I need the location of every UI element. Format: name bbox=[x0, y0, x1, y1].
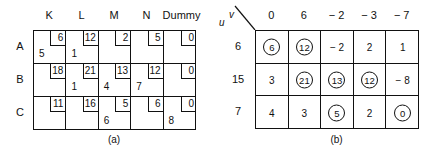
table-cell: 21 bbox=[289, 64, 322, 97]
cost-box: 0 bbox=[181, 31, 196, 46]
cell-value: 3 bbox=[289, 107, 321, 118]
allocation-value: 4 bbox=[104, 81, 110, 92]
reduced-cost-value: − 8 bbox=[396, 74, 410, 85]
column-header: K bbox=[33, 9, 65, 21]
cell-value: 12 bbox=[289, 38, 321, 55]
cost-box: 21 bbox=[83, 64, 98, 79]
table-cell: 3 bbox=[256, 64, 289, 97]
circled-basic-value: 5 bbox=[328, 104, 345, 121]
table-cell: 2 bbox=[354, 31, 387, 64]
column-header: Dummy bbox=[163, 9, 195, 21]
table-cell: 0 bbox=[164, 64, 196, 97]
table-cell: 6 bbox=[256, 31, 289, 64]
caption-a: (a) bbox=[33, 134, 195, 145]
column-header: L bbox=[65, 9, 97, 21]
u-value: 7 bbox=[227, 105, 249, 117]
circled-basic-value: 0 bbox=[394, 104, 411, 121]
allocation-value: 1 bbox=[71, 48, 77, 59]
circled-basic-value: 12 bbox=[296, 38, 313, 55]
v-value: 6 bbox=[288, 9, 321, 21]
cost-box: 18 bbox=[50, 64, 65, 79]
table-cell: 65 bbox=[34, 31, 66, 64]
column-header: N bbox=[130, 9, 162, 21]
table-cell: 6 bbox=[131, 97, 163, 130]
cell-value: 21 bbox=[289, 71, 321, 88]
cost-box: 6 bbox=[148, 97, 163, 112]
caption-b: (b) bbox=[255, 134, 418, 145]
table-cell: − 2 bbox=[321, 31, 354, 64]
allocation-value: 5 bbox=[39, 48, 45, 59]
u-value: 15 bbox=[227, 73, 249, 85]
cell-value: 13 bbox=[321, 71, 353, 88]
cell-value: 3 bbox=[256, 74, 288, 85]
table-cell: 211 bbox=[66, 64, 98, 97]
reduced-cost-value: 1 bbox=[400, 41, 406, 52]
reduced-cost-value: − 2 bbox=[330, 41, 344, 52]
table-cell: 11 bbox=[34, 97, 66, 130]
row-header: B bbox=[12, 73, 28, 85]
v-value: 0 bbox=[255, 9, 288, 21]
cost-box: 12 bbox=[148, 64, 163, 79]
cost-box: 0 bbox=[181, 97, 196, 112]
reduced-cost-value: 3 bbox=[269, 74, 275, 85]
column-header: M bbox=[98, 9, 130, 21]
allocation-value: 1 bbox=[71, 81, 77, 92]
cell-value: − 8 bbox=[386, 74, 419, 85]
reduced-cost-value: 4 bbox=[269, 107, 275, 118]
table-cell: 4 bbox=[256, 96, 289, 129]
cost-box: 11 bbox=[50, 97, 65, 112]
cost-box: 12 bbox=[83, 31, 98, 46]
corner-u-label: u bbox=[219, 17, 225, 28]
cell-value: − 2 bbox=[321, 41, 353, 52]
cost-box: 0 bbox=[181, 64, 196, 79]
table-cell: 2 bbox=[99, 31, 131, 64]
cell-value: 2 bbox=[354, 107, 386, 118]
cost-box: 13 bbox=[115, 64, 130, 79]
corner-v-label: v bbox=[229, 9, 234, 20]
u-value: 6 bbox=[227, 40, 249, 52]
cell-value: 1 bbox=[386, 41, 419, 52]
table-cell: 0 bbox=[386, 96, 419, 129]
table-cell: 0 bbox=[164, 31, 196, 64]
transport-table-b: 612− 2213211312− 843520 bbox=[255, 30, 419, 129]
transport-table-a: 65121250182111341270111656608 bbox=[33, 30, 196, 130]
cell-value: 4 bbox=[256, 107, 288, 118]
circled-basic-value: 13 bbox=[328, 71, 345, 88]
circled-basic-value: 6 bbox=[263, 38, 280, 55]
table-cell: 5 bbox=[131, 31, 163, 64]
table-cell: 16 bbox=[66, 97, 98, 130]
cell-value: 2 bbox=[354, 41, 386, 52]
reduced-cost-value: 3 bbox=[302, 107, 308, 118]
allocation-value: 7 bbox=[136, 81, 142, 92]
table-cell: 1 bbox=[386, 31, 419, 64]
v-value: − 3 bbox=[353, 9, 386, 21]
cost-box: 5 bbox=[148, 31, 163, 46]
cell-value: 6 bbox=[256, 38, 288, 55]
table-cell: 13 bbox=[321, 64, 354, 97]
table-cell: 12 bbox=[354, 64, 387, 97]
table-cell: 08 bbox=[164, 97, 196, 130]
cost-box: 2 bbox=[115, 31, 130, 46]
row-header: A bbox=[12, 40, 28, 52]
table-cell: 121 bbox=[66, 31, 98, 64]
cost-box: 6 bbox=[50, 31, 65, 46]
table-cell: 2 bbox=[354, 96, 387, 129]
allocation-value: 6 bbox=[104, 115, 110, 126]
reduced-cost-value: 2 bbox=[367, 41, 373, 52]
table-cell: 127 bbox=[131, 64, 163, 97]
row-header: C bbox=[12, 106, 28, 118]
cell-value: 0 bbox=[386, 104, 419, 121]
table-cell: 56 bbox=[99, 97, 131, 130]
v-value: − 2 bbox=[320, 9, 353, 21]
reduced-cost-value: 2 bbox=[367, 107, 373, 118]
cell-value: 12 bbox=[354, 71, 386, 88]
cost-box: 5 bbox=[115, 97, 130, 112]
cell-value: 5 bbox=[321, 104, 353, 121]
table-cell: 3 bbox=[289, 96, 322, 129]
allocation-value: 8 bbox=[169, 115, 175, 126]
circled-basic-value: 21 bbox=[296, 71, 313, 88]
cost-box: 16 bbox=[83, 97, 98, 112]
v-value: − 7 bbox=[385, 9, 418, 21]
table-cell: 12 bbox=[289, 31, 322, 64]
circled-basic-value: 12 bbox=[361, 71, 378, 88]
